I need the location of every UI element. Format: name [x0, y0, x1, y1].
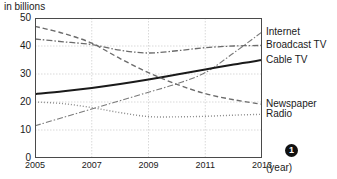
series-legend-labels: InternetBroadcast TVCable TVNewspaperRad…: [266, 18, 337, 158]
series-label-cable-tv: Cable TV: [266, 54, 308, 65]
x-tick-2011: 2011: [196, 160, 215, 170]
series-label-broadcast-tv: Broadcast TV: [266, 39, 326, 50]
chart-screenshot: in billions 01020304050 2005200720092011…: [0, 0, 337, 179]
y-axis-tick-labels: 01020304050: [0, 18, 31, 158]
x-tick-2005: 2005: [25, 160, 45, 170]
x-axis-title: (year): [266, 162, 292, 173]
line-chart-svg: [35, 18, 262, 158]
series-line-cable-tv: [35, 60, 262, 94]
x-axis-tick-labels: 20052007200920112013: [35, 160, 262, 174]
footnote-badge: 1: [285, 144, 298, 157]
gridlines: [35, 18, 262, 158]
plot-area: [35, 18, 262, 158]
y-tick-40: 40: [3, 41, 31, 51]
series-label-internet: Internet: [266, 26, 300, 37]
y-tick-20: 20: [3, 97, 31, 107]
x-tick-2009: 2009: [138, 160, 158, 170]
y-tick-30: 30: [3, 69, 31, 79]
x-tick-2007: 2007: [82, 160, 102, 170]
series-label-radio: Radio: [266, 108, 292, 119]
y-tick-10: 10: [3, 125, 31, 135]
y-tick-50: 50: [3, 13, 31, 23]
